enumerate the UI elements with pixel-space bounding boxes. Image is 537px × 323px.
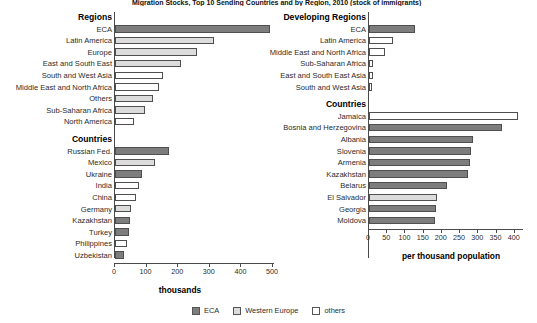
chart-panel-right: Developing RegionsECALatin AmericaMiddle… <box>258 12 537 262</box>
bar-row: Turkey <box>0 227 280 239</box>
bar-row: South and West Asia <box>258 82 537 94</box>
bar-row: Middle East and North Africa <box>258 47 537 59</box>
bar <box>115 106 145 113</box>
bar-row: Kazakhstan <box>258 169 537 181</box>
bar-row: Sub-Saharan Africa <box>0 105 280 117</box>
bar-row: ECA <box>258 24 537 36</box>
bar-row: ECA <box>0 24 280 36</box>
bar <box>369 25 415 32</box>
x-tick-label: 400 <box>508 233 520 242</box>
group-header-label: Countries <box>258 99 366 111</box>
bar <box>115 48 197 55</box>
x-tick-label: 400 <box>234 267 246 276</box>
bar <box>369 182 447 189</box>
bar-category-label: ECA <box>258 24 366 36</box>
bar <box>115 37 214 44</box>
x-tick-label: 150 <box>417 233 429 242</box>
bar-row: Belarus <box>258 180 537 192</box>
bar <box>115 251 124 258</box>
group-header-2: Countries <box>0 134 280 146</box>
bar-row: East and South East <box>0 58 280 70</box>
bar <box>369 72 373 79</box>
bar-row: South and West Asia <box>0 70 280 82</box>
bar-category-label: El Salvador <box>258 192 366 204</box>
right-chart-rows: Developing RegionsECALatin AmericaMiddle… <box>258 12 537 227</box>
bar-row: El Salvador <box>258 192 537 204</box>
bar-category-label: Sub-Saharan Africa <box>0 105 112 117</box>
bar-category-label: East and South East <box>0 58 112 70</box>
bar <box>369 136 473 143</box>
bar <box>115 240 127 247</box>
bar-category-label: ECA <box>0 24 112 36</box>
bar <box>115 72 163 79</box>
group-header-label: Regions <box>0 12 112 24</box>
figure-title: Migration Stocks, Top 10 Sending Countri… <box>132 0 532 6</box>
bar-row: Jamaica <box>258 111 537 123</box>
bar <box>369 112 518 119</box>
x-tick-label: 0 <box>366 233 370 242</box>
bar-category-label: Ukraine <box>0 169 112 181</box>
bar-category-label: Latin America <box>0 35 112 47</box>
legend-swatch-we <box>233 307 241 315</box>
x-tick-label: 50 <box>382 233 390 242</box>
legend-item-we: Western Europe <box>233 306 298 315</box>
bar-row: Latin America <box>258 35 537 47</box>
bar-category-label: Belarus <box>258 180 366 192</box>
group-header-1: Regions <box>0 12 280 24</box>
bar-category-label: Uzbekistan <box>0 250 112 262</box>
figure-root: Migration Stocks, Top 10 Sending Countri… <box>0 0 537 323</box>
bar-category-label: Kazakhstan <box>258 169 366 181</box>
bar-category-label: Armenia <box>258 157 366 169</box>
bar <box>115 170 142 177</box>
bar-category-label: Sub-Saharan Africa <box>258 58 366 70</box>
legend-item-other: others <box>312 306 345 315</box>
bar-category-label: Middle East and North Africa <box>0 82 112 94</box>
bar <box>115 83 159 90</box>
bar-row: Georgia <box>258 204 537 216</box>
bar-category-label: Moldova <box>258 215 366 227</box>
right-x-axis-title: per thousand population <box>376 251 526 261</box>
x-tick-label: 300 <box>203 267 215 276</box>
bar <box>115 205 131 212</box>
bar-category-label: Georgia <box>258 204 366 216</box>
group-header-2: Countries <box>258 99 537 111</box>
bar-row: Philippines <box>0 238 280 250</box>
bar-category-label: Russian Fed. <box>0 146 112 158</box>
legend-label: ECA <box>204 306 219 315</box>
x-axis-baseline <box>368 229 523 230</box>
bar <box>115 25 270 32</box>
bar-row: North America <box>0 116 280 128</box>
bar-row: India <box>0 180 280 192</box>
bar-row: Slovenia <box>258 146 537 158</box>
bar-row: Europe <box>0 47 280 59</box>
bar <box>369 147 471 154</box>
bar <box>369 159 470 166</box>
bar-category-label: Middle East and North Africa <box>258 47 366 59</box>
x-axis-baseline <box>114 263 274 264</box>
bar <box>115 182 139 189</box>
bar <box>369 83 372 90</box>
chart-panel-left: RegionsECALatin AmericaEuropeEast and So… <box>0 12 280 262</box>
chart-legend: ECAWestern Europeothers <box>0 306 537 315</box>
bar <box>115 228 129 235</box>
bar-row: Russian Fed. <box>0 146 280 158</box>
bar-row: Kazakhstan <box>0 215 280 227</box>
bar-row: Germany <box>0 204 280 216</box>
x-tick-label: 100 <box>398 233 410 242</box>
bar <box>369 124 502 131</box>
x-tick-label: 250 <box>453 233 465 242</box>
bar-category-label: Mexico <box>0 157 112 169</box>
bar-category-label: India <box>0 180 112 192</box>
bar-category-label: Albania <box>258 134 366 146</box>
bar <box>369 170 468 177</box>
bar <box>115 95 153 102</box>
bar-category-label: Slovenia <box>258 146 366 158</box>
group-header-label: Developing Regions <box>258 12 366 24</box>
group-header-label: Countries <box>0 134 112 146</box>
legend-swatch-eca <box>192 307 200 315</box>
bar-row: Armenia <box>258 157 537 169</box>
bar-category-label: Philippines <box>0 238 112 250</box>
bar <box>115 217 130 224</box>
right-x-axis: 050100150200250300350400 <box>258 229 537 243</box>
bar-category-label: Germany <box>0 204 112 216</box>
